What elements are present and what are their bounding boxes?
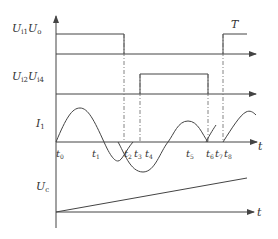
capacitor-ramp <box>56 178 247 212</box>
top-signal-label: Ui1Uo <box>12 22 41 36</box>
time-mark-t3: t3 <box>134 148 142 160</box>
top-signal: Ui1Uo T <box>12 18 256 54</box>
time-mark-t2: t2 <box>124 148 132 160</box>
top-signal-next-pulse <box>223 34 247 54</box>
top-signal-pulse <box>56 34 124 54</box>
capacitor-time-label: t <box>257 206 262 219</box>
time-mark-t6: t6 <box>206 148 214 160</box>
capacitor-label: Uc <box>36 180 49 194</box>
second-signal-pulse <box>140 74 208 94</box>
time-mark-t4: t4 <box>145 148 153 160</box>
current-signal: I1 t <box>35 108 263 172</box>
capacitor-voltage: Uc t <box>36 178 262 219</box>
time-mark-t1: t1 <box>92 148 100 160</box>
time-axis-label: t <box>258 140 263 153</box>
period-label: T <box>231 18 240 31</box>
time-mark-t8: t8 <box>224 148 232 160</box>
second-signal-label: Ui2Ui4 <box>12 70 45 84</box>
current-waveform-3 <box>206 125 216 142</box>
time-marks: t0 t1 t2 t3 t4 t5 t6 t7 t8 <box>56 148 232 160</box>
timing-diagram: Ui1Uo T Ui2Ui4 I1 t t0 t1 t2 t3 t4 t5 t6… <box>0 0 278 239</box>
time-mark-t7: t7 <box>215 148 223 160</box>
time-mark-t0: t0 <box>56 148 64 160</box>
current-waveform-2 <box>118 121 208 172</box>
current-label: I1 <box>35 117 45 131</box>
time-mark-t5: t5 <box>186 148 194 160</box>
second-signal: Ui2Ui4 <box>12 70 256 94</box>
current-waveform-4 <box>223 111 256 142</box>
